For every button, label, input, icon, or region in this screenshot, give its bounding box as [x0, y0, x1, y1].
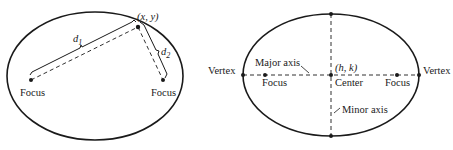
right-vertex-label: Vertex [423, 65, 451, 76]
d1-dashed-line [31, 27, 138, 80]
left-ellipse-diagram: (x, y) d1 d2 Focus Focus [7, 11, 183, 140]
center-label: Center [335, 77, 363, 88]
major-axis-leader [301, 66, 309, 73]
left-focus-label: Focus [262, 77, 287, 88]
left-vertex-label: Vertex [208, 65, 236, 76]
left-ellipse [7, 12, 183, 140]
center-point [329, 73, 333, 77]
ellipse-diagrams: (x, y) d1 d2 Focus Focus Vertex Vertex M… [0, 0, 453, 150]
right-focus-point [161, 78, 165, 82]
right-ellipse-diagram: Vertex Vertex Major axis (h, k) Center F… [208, 12, 451, 138]
right-focus-label: Focus [385, 77, 410, 88]
right-vertex-point [417, 73, 421, 77]
d1-brace [30, 20, 136, 75]
left-vertex-point [241, 73, 245, 77]
minor-axis-label: Minor axis [342, 104, 388, 115]
d2-dashed-line [138, 27, 163, 80]
left-focus-point [29, 78, 33, 82]
center-coord-label: (h, k) [335, 62, 358, 74]
left-focus-label: Focus [20, 87, 45, 98]
minor-axis-leader [334, 108, 340, 113]
right-focus-label: Focus [151, 87, 176, 98]
point-xy-label: (x, y) [137, 11, 159, 23]
d2-label: d2 [161, 46, 170, 60]
point-xy [136, 25, 140, 29]
bottom-covertex-point [329, 134, 333, 138]
d1-label: d1 [73, 33, 82, 47]
top-covertex-point [329, 12, 333, 16]
major-axis-label: Major axis [255, 57, 300, 68]
